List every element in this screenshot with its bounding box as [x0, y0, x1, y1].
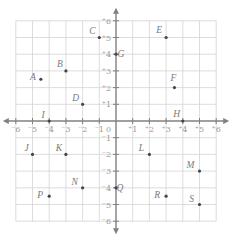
point-label-l: L [138, 143, 144, 153]
x-axis-left-arrow-icon [3, 118, 9, 124]
point-label-i: I [41, 110, 46, 120]
plotted-points: ABCDEFGHIJKLMNPQRS [24, 25, 201, 207]
point-j [31, 153, 34, 156]
point-s [198, 203, 201, 206]
point-label-c: C [89, 26, 96, 36]
x-tick-label: ⁺6 [212, 125, 221, 134]
y-tick-label: ⁻6 [102, 217, 111, 226]
y-axis-up-arrow-icon [113, 8, 119, 14]
x-tick-label: ⁻6 [11, 125, 20, 134]
axes [3, 8, 229, 234]
x-tick-label: ⁺3 [161, 125, 170, 134]
y-tick-label: ⁺4 [102, 50, 111, 59]
y-tick-label: ⁻4 [102, 184, 111, 193]
y-tick-label: ⁺5 [102, 34, 111, 43]
point-label-n: N [70, 177, 78, 187]
point-k [64, 153, 67, 156]
point-c [98, 36, 101, 39]
coordinate-plane: ⁻6⁻5⁻4⁻3⁻2⁻1⁺1⁺2⁺3⁺4⁺5⁺6⁻6⁻5⁻4⁻3⁻2⁻1⁺1⁺2… [0, 0, 245, 244]
point-b [64, 69, 67, 72]
point-r [165, 195, 168, 198]
x-tick-label: ⁻3 [61, 125, 70, 134]
x-tick-label: ⁻1 [95, 125, 104, 134]
point-label-e: E [155, 25, 162, 35]
y-tick-label: ⁻3 [102, 167, 111, 176]
point-label-r: R [153, 190, 160, 200]
y-tick-label: ⁺6 [102, 17, 111, 26]
y-axis-down-arrow-icon [113, 228, 119, 234]
y-tick-label: ⁺3 [102, 67, 111, 76]
point-label-q: Q [117, 183, 124, 193]
y-tick-label: ⁺1 [102, 100, 111, 109]
point-label-p: P [36, 190, 43, 200]
point-label-h: H [172, 109, 181, 119]
point-label-m: M [186, 160, 196, 170]
point-n [81, 186, 84, 189]
y-tick-label: ⁺2 [102, 84, 111, 93]
x-tick-label: ⁻2 [78, 125, 87, 134]
y-tick-label: ⁻1 [102, 134, 111, 143]
point-label-b: B [57, 59, 63, 69]
x-tick-label: ⁺5 [195, 125, 204, 134]
point-i [48, 119, 51, 122]
point-label-s: S [189, 194, 194, 204]
point-label-d: D [71, 93, 79, 103]
point-label-f: F [170, 73, 177, 83]
point-label-a: A [29, 72, 36, 82]
x-tick-label: ⁻5 [28, 125, 37, 134]
point-label-k: K [55, 143, 63, 153]
point-e [165, 36, 168, 39]
x-tick-label: ⁺4 [178, 125, 187, 134]
point-f [173, 86, 176, 89]
point-a [39, 78, 42, 81]
point-label-g: G [118, 49, 125, 59]
point-label-j: J [24, 143, 29, 153]
x-tick-label: ⁻4 [45, 125, 54, 134]
point-d [81, 103, 84, 106]
point-p [48, 195, 51, 198]
origin-label: 0 [106, 125, 111, 134]
x-axis-right-arrow-icon [223, 118, 229, 124]
x-tick-label: ⁺2 [145, 125, 154, 134]
point-l [148, 153, 151, 156]
point-m [198, 170, 201, 173]
y-tick-label: ⁻2 [102, 150, 111, 159]
y-tick-label: ⁻5 [102, 201, 111, 210]
point-h [181, 119, 184, 122]
x-tick-label: ⁺1 [128, 125, 137, 134]
